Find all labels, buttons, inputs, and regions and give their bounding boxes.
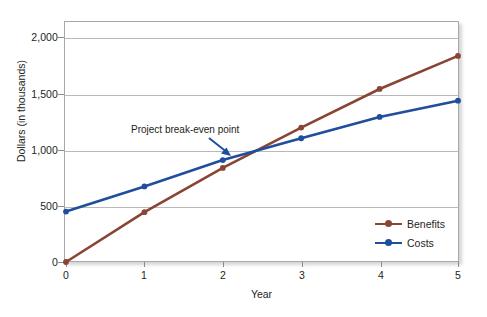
x-tick-label-4: 4 xyxy=(367,270,395,281)
x-tick-mark-2 xyxy=(223,262,224,267)
y-axis-ticks: 2,000 1,500 1,000 500 0 xyxy=(0,0,58,317)
legend-item-costs[interactable]: Costs xyxy=(375,233,459,252)
x-tick-label-1: 1 xyxy=(130,270,158,281)
legend-swatch-benefits xyxy=(375,219,402,229)
gridline-1000 xyxy=(65,151,458,152)
y-tick-label-2000: 2,000 xyxy=(6,32,58,43)
gridline-2000 xyxy=(65,38,458,39)
legend-item-benefits[interactable]: Benefits xyxy=(375,214,459,233)
break-even-annotation-label: Project break-even point xyxy=(131,124,239,135)
legend-swatch-costs xyxy=(375,238,402,248)
y-tick-mark-1000 xyxy=(58,150,64,151)
y-tick-label-0: 0 xyxy=(6,257,58,268)
y-tick-label-1500: 1,500 xyxy=(6,89,58,100)
x-tick-label-3: 3 xyxy=(288,270,316,281)
x-tick-label-0: 0 xyxy=(52,270,80,281)
y-tick-label-500: 500 xyxy=(6,201,58,212)
y-tick-mark-500 xyxy=(58,206,64,207)
y-tick-mark-2000 xyxy=(58,37,64,38)
gridline-1500 xyxy=(65,95,458,96)
cost-benefit-line-chart: 2,000 1,500 1,000 500 0 Dollars (in thou… xyxy=(0,0,487,317)
x-tick-label-5: 5 xyxy=(444,270,472,281)
y-tick-mark-1500 xyxy=(58,94,64,95)
x-tick-mark-5 xyxy=(458,262,459,267)
x-axis-title: Year xyxy=(64,288,459,300)
y-axis-title: Dollars (in thousands) xyxy=(15,46,27,176)
x-tick-label-2: 2 xyxy=(209,270,237,281)
y-tick-mark-0 xyxy=(58,262,64,263)
x-tick-mark-3 xyxy=(302,262,303,267)
legend-label-benefits: Benefits xyxy=(407,218,445,230)
x-tick-mark-4 xyxy=(381,262,382,267)
gridline-500 xyxy=(65,207,458,208)
x-tick-mark-1 xyxy=(144,262,145,267)
y-tick-label-1000: 1,000 xyxy=(6,145,58,156)
legend-label-costs: Costs xyxy=(407,237,434,249)
legend: Benefits Costs xyxy=(375,214,459,252)
x-tick-mark-0 xyxy=(66,262,67,267)
